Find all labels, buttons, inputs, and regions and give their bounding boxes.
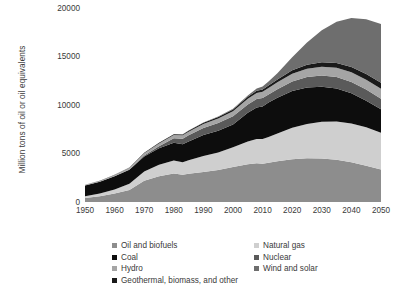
legend-item[interactable]: Geothermal, biomass, and other <box>112 275 238 287</box>
legend-swatch-icon <box>112 278 117 283</box>
y-tick-label: 20000 <box>57 4 80 13</box>
legend-swatch-icon <box>254 243 259 248</box>
y-tick-label: 10000 <box>57 101 80 110</box>
legend-item[interactable]: Hydro <box>112 263 238 275</box>
legend-item-label: Geothermal, biomass, and other <box>121 276 238 285</box>
legend-item-label: Coal <box>121 253 138 262</box>
legend-item-label: Nuclear <box>263 253 291 262</box>
y-axis-labels: Million tons of oil or oil equivalents 0… <box>0 0 80 210</box>
x-axis-labels: 1950196019701980199020002010202020302040… <box>85 206 381 222</box>
legend-item[interactable]: Nuclear <box>254 252 318 264</box>
chart-figure: Million tons of oil or oil equivalents 0… <box>0 0 415 299</box>
legend-item[interactable]: Natural gas <box>254 240 318 252</box>
legend-item-label: Hydro <box>121 264 143 273</box>
legend-column-right: Natural gasNuclearWind and solar <box>254 240 318 275</box>
legend-column-left: Oil and biofuelsCoalHydroGeothermal, bio… <box>112 240 238 286</box>
legend-swatch-icon <box>254 266 259 271</box>
legend-swatch-icon <box>112 243 117 248</box>
x-tick-label: 2050 <box>361 206 401 215</box>
legend-item[interactable]: Wind and solar <box>254 263 318 275</box>
legend-item-label: Oil and biofuels <box>121 241 177 250</box>
legend-item-label: Natural gas <box>263 241 305 250</box>
legend-item-label: Wind and solar <box>263 264 318 273</box>
y-tick-label: 5000 <box>62 149 80 158</box>
legend-item[interactable]: Oil and biofuels <box>112 240 238 252</box>
legend-item[interactable]: Coal <box>112 252 238 264</box>
legend-swatch-icon <box>254 255 259 260</box>
plot-area <box>85 8 381 202</box>
legend-swatch-icon <box>112 255 117 260</box>
legend-swatch-icon <box>112 266 117 271</box>
y-tick-label: 15000 <box>57 52 80 61</box>
stacked-area-svg <box>85 8 381 202</box>
y-axis-title: Million tons of oil or oil equivalents <box>18 20 27 200</box>
chart-legend: Oil and biofuelsCoalHydroGeothermal, bio… <box>112 240 402 292</box>
